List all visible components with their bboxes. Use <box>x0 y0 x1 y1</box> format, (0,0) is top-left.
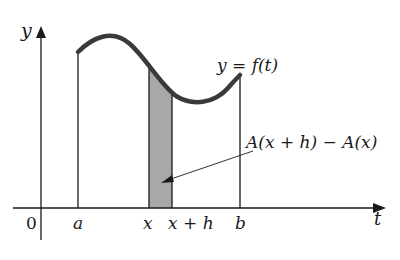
tick-label-x: x <box>143 213 153 233</box>
origin-label: 0 <box>26 213 37 233</box>
tick-label-b: b <box>235 213 246 233</box>
y-axis-label: y <box>20 19 32 41</box>
tick-label-a: a <box>73 213 83 233</box>
curve-label: y = f(t) <box>216 55 278 75</box>
tick-label-x-plus-h: x + h <box>168 213 214 233</box>
y-axis-arrow-icon <box>36 26 46 38</box>
shaded-strip <box>78 36 240 208</box>
annotation-label: A(x + h) − A(x) <box>244 132 377 152</box>
area-function-diagram: y t 0 a x x + h b y = f(t) A(x + h) − A(… <box>0 0 400 260</box>
t-axis-label: t <box>374 208 382 229</box>
